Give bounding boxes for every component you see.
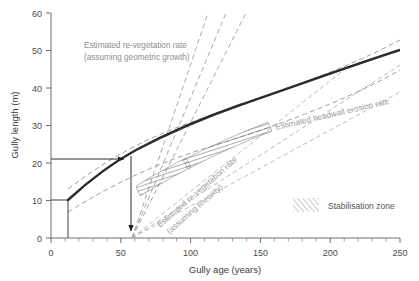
y-tick-labels: 60 50 40 30 20 10 0 bbox=[32, 9, 42, 244]
x-tick-label: 150 bbox=[253, 248, 268, 258]
y-axis bbox=[46, 13, 51, 238]
y-tick-label: 60 bbox=[32, 9, 42, 19]
y-tick-label: 0 bbox=[37, 234, 42, 244]
x-tick-label: 0 bbox=[48, 248, 53, 258]
x-tick-label: 200 bbox=[323, 248, 338, 258]
annotation-line-1: Estimated re-vegetation rate bbox=[84, 41, 187, 50]
annotation-line-1: Estimated headwall erosion rate bbox=[274, 97, 390, 132]
x-tick-label: 100 bbox=[183, 248, 198, 258]
stabilisation-zone-band-2 bbox=[136, 158, 191, 196]
y-tick-label: 10 bbox=[32, 196, 42, 206]
x-tick-label: 50 bbox=[116, 248, 126, 258]
indicator-arrows bbox=[51, 156, 131, 238]
chart-figure: 60 50 40 30 20 10 0 0 50 100 150 200 250… bbox=[0, 0, 419, 281]
y-tick-label: 20 bbox=[32, 159, 42, 169]
annotation-line-2: (assuming geometric growth) bbox=[84, 53, 190, 62]
x-tick-label: 250 bbox=[392, 248, 407, 258]
legend-swatch-hatched bbox=[293, 198, 319, 212]
x-axis-title: Gully age (years) bbox=[189, 264, 261, 275]
annotation-line-1: Estimated re-vegetation rate bbox=[155, 155, 239, 230]
headwall-erosion-label: Estimated headwall erosion rate bbox=[274, 97, 390, 132]
x-tick-labels: 0 50 100 150 200 250 bbox=[48, 248, 407, 258]
x-axis bbox=[51, 238, 400, 243]
legend-label: Stabilisation zone bbox=[328, 201, 395, 211]
y-tick-label: 50 bbox=[32, 46, 42, 56]
y-tick-label: 40 bbox=[32, 84, 42, 94]
headwall-erosion-curve bbox=[68, 50, 400, 200]
y-tick-label: 30 bbox=[32, 121, 42, 131]
revegetation-geometric-label: Estimated re-vegetation rate (assuming g… bbox=[84, 41, 190, 62]
chart-svg: 60 50 40 30 20 10 0 0 50 100 150 200 250… bbox=[0, 0, 419, 281]
legend: Stabilisation zone bbox=[293, 198, 395, 212]
y-axis-title: Gully length (m) bbox=[9, 91, 20, 158]
